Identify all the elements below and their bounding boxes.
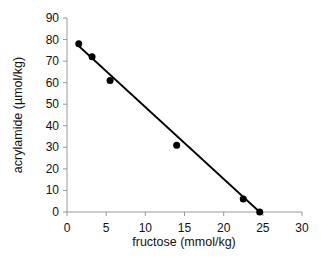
x-tick-label: 5 xyxy=(103,221,110,235)
data-point xyxy=(107,77,114,84)
x-tick-label: 15 xyxy=(178,221,192,235)
data-point xyxy=(173,142,180,149)
y-tick-label: 70 xyxy=(46,54,60,68)
x-tick-label: 20 xyxy=(217,221,231,235)
y-tick-label: 50 xyxy=(46,97,60,111)
y-tick-label: 30 xyxy=(46,140,60,154)
y-tick-label: 40 xyxy=(46,119,60,133)
axes xyxy=(67,18,302,212)
data-point xyxy=(256,209,263,216)
x-tick-label: 10 xyxy=(139,221,153,235)
x-tick-label: 25 xyxy=(256,221,270,235)
trendline xyxy=(79,46,260,212)
y-tick-label: 20 xyxy=(46,162,60,176)
scatter-chart: 0102030405060708090 051015202530 fructos… xyxy=(0,0,321,270)
data-point xyxy=(240,196,247,203)
data-point xyxy=(75,40,82,47)
y-axis-label: acrylamide (µmol/kg) xyxy=(11,57,25,173)
y-tick-label: 90 xyxy=(46,11,60,25)
y-axis-ticks: 0102030405060708090 xyxy=(46,11,67,219)
y-tick-label: 10 xyxy=(46,183,60,197)
x-tick-label: 0 xyxy=(64,221,71,235)
y-tick-label: 80 xyxy=(46,33,60,47)
x-tick-label: 30 xyxy=(295,221,309,235)
y-tick-label: 60 xyxy=(46,76,60,90)
data-point xyxy=(89,53,96,60)
x-axis-ticks: 051015202530 xyxy=(64,212,309,235)
trendline-path xyxy=(79,46,260,212)
x-axis-label: fructose (mmol/kg) xyxy=(132,235,236,249)
y-tick-label: 0 xyxy=(52,205,59,219)
